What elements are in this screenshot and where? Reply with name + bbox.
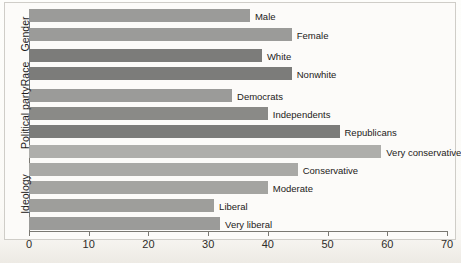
bar: [29, 181, 268, 194]
group-label-ideology: Ideology: [19, 151, 31, 237]
bar: [29, 89, 232, 102]
x-tick-label: 70: [441, 238, 453, 250]
x-tick: [387, 231, 388, 236]
chart-frame: 010203040506070 MaleFemaleWhiteNonwhiteD…: [4, 2, 456, 240]
bar-row: White: [29, 49, 447, 62]
bar-value-label: Very conservative: [386, 146, 461, 157]
x-tick-label: 40: [262, 238, 274, 250]
bar-row: Republicans: [29, 125, 447, 138]
bar-value-label: White: [267, 50, 291, 61]
bar: [29, 199, 214, 212]
x-tick-label: 0: [26, 238, 32, 250]
bar: [29, 145, 381, 158]
x-tick: [89, 231, 90, 236]
x-tick: [328, 231, 329, 236]
x-tick-label: 60: [381, 238, 393, 250]
bar-value-label: Female: [297, 29, 329, 40]
bar-row: Male: [29, 9, 447, 22]
bar: [29, 67, 292, 80]
bar: [29, 125, 340, 138]
x-tick: [268, 231, 269, 236]
x-tick-label: 30: [202, 238, 214, 250]
x-tick: [208, 231, 209, 236]
bar-row: Democrats: [29, 89, 447, 102]
bar-row: Female: [29, 28, 447, 41]
bar-value-label: Liberal: [219, 200, 248, 211]
group-label-political-party: Political party: [19, 95, 31, 149]
bar-value-label: Male: [255, 10, 276, 21]
bar-row: Moderate: [29, 181, 447, 194]
plot-area: 010203040506070 MaleFemaleWhiteNonwhiteD…: [29, 9, 447, 231]
bar: [29, 28, 292, 41]
bar-row: Independents: [29, 107, 447, 120]
bar: [29, 107, 268, 120]
x-tick-label: 10: [83, 238, 95, 250]
bar-value-label: Moderate: [273, 182, 313, 193]
bar-value-label: Republicans: [345, 126, 397, 137]
bar-value-label: Democrats: [237, 90, 283, 101]
bar-row: Liberal: [29, 199, 447, 212]
bar: [29, 49, 262, 62]
bar-value-label: Independents: [273, 108, 331, 119]
x-tick: [148, 231, 149, 236]
bar-value-label: Very liberal: [225, 218, 272, 229]
bar-row: Very liberal: [29, 217, 447, 230]
figure-page: 010203040506070 MaleFemaleWhiteNonwhiteD…: [0, 0, 461, 263]
x-tick-label: 50: [321, 238, 333, 250]
bar: [29, 163, 298, 176]
bar: [29, 217, 220, 230]
bar-row: Conservative: [29, 163, 447, 176]
x-tick: [447, 231, 448, 236]
x-axis-line: [29, 231, 448, 232]
bar-row: Very conservative: [29, 145, 447, 158]
bar-row: Nonwhite: [29, 67, 447, 80]
bar-value-label: Nonwhite: [297, 68, 337, 79]
bar-value-label: Conservative: [303, 164, 358, 175]
bar: [29, 9, 250, 22]
group-label-gender: Gender: [19, 15, 31, 53]
x-tick-label: 20: [142, 238, 154, 250]
